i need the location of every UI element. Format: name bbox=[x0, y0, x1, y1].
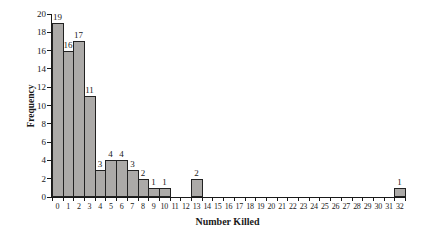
x-tick bbox=[138, 197, 139, 201]
x-tick bbox=[373, 197, 374, 201]
bar-value-label: 4 bbox=[110, 149, 134, 159]
x-tick bbox=[277, 197, 278, 201]
y-tick-label: 18 bbox=[20, 27, 46, 37]
x-axis-title: Number Killed bbox=[51, 216, 404, 227]
bar bbox=[159, 188, 171, 197]
x-tick bbox=[309, 197, 310, 201]
x-tick bbox=[362, 197, 363, 201]
x-tick bbox=[319, 197, 320, 201]
x-tick bbox=[180, 197, 181, 201]
bar-value-label: 11 bbox=[78, 85, 102, 95]
x-tick bbox=[95, 197, 96, 201]
x-tick bbox=[245, 197, 246, 201]
bar-value-label: 1 bbox=[388, 177, 412, 187]
x-tick bbox=[352, 197, 353, 201]
bar bbox=[394, 188, 406, 197]
x-tick bbox=[105, 197, 106, 201]
x-tick bbox=[330, 197, 331, 201]
x-tick bbox=[341, 197, 342, 201]
x-tick bbox=[394, 197, 395, 201]
x-tick bbox=[84, 197, 85, 201]
x-tick bbox=[255, 197, 256, 201]
x-tick bbox=[116, 197, 117, 201]
x-tick bbox=[223, 197, 224, 201]
x-tick bbox=[298, 197, 299, 201]
bar-value-label: 2 bbox=[185, 168, 209, 178]
y-tick-label: 8 bbox=[20, 119, 46, 129]
x-tick bbox=[202, 197, 203, 201]
x-tick bbox=[170, 197, 171, 201]
x-tick bbox=[287, 197, 288, 201]
bar-value-label: 17 bbox=[67, 30, 91, 40]
y-tick-label: 2 bbox=[20, 174, 46, 184]
y-tick-label: 10 bbox=[20, 101, 46, 111]
x-tick-label: 32 bbox=[390, 202, 410, 211]
histogram-figure: Frequency 024681012141618200123456789101… bbox=[0, 0, 426, 247]
y-tick-label: 14 bbox=[20, 64, 46, 74]
x-tick bbox=[405, 197, 406, 201]
bar bbox=[191, 179, 203, 197]
bar-value-label: 19 bbox=[46, 12, 70, 22]
y-tick-label: 12 bbox=[20, 82, 46, 92]
plot-area: Frequency 024681012141618200123456789101… bbox=[51, 14, 405, 198]
y-tick-label: 16 bbox=[20, 46, 46, 56]
x-tick bbox=[234, 197, 235, 201]
y-tick-label: 4 bbox=[20, 155, 46, 165]
x-tick bbox=[148, 197, 149, 201]
y-tick-label: 0 bbox=[20, 192, 46, 202]
x-tick bbox=[127, 197, 128, 201]
x-tick bbox=[384, 197, 385, 201]
x-tick bbox=[73, 197, 74, 201]
x-tick bbox=[191, 197, 192, 201]
x-tick bbox=[52, 197, 53, 201]
x-tick bbox=[63, 197, 64, 201]
bar-value-label: 1 bbox=[153, 177, 177, 187]
y-tick-label: 6 bbox=[20, 137, 46, 147]
x-tick bbox=[159, 197, 160, 201]
x-tick bbox=[212, 197, 213, 201]
x-tick bbox=[266, 197, 267, 201]
y-tick-label: 20 bbox=[20, 9, 46, 19]
